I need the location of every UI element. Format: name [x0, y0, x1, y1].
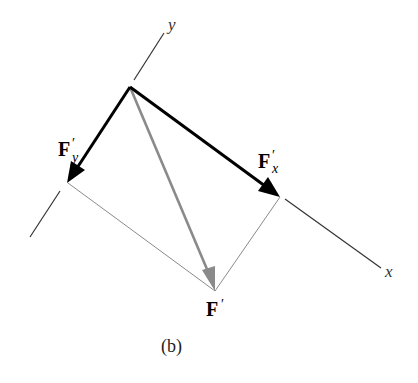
svg-text:F: F [258, 150, 270, 172]
svg-text:F: F [58, 138, 70, 160]
force-component-y-label: F ′ y [58, 136, 79, 165]
force-component-x-label: F ′ x [258, 148, 279, 176]
y-axis-upper [134, 33, 164, 80]
construction-line-from-fx [215, 197, 280, 291]
resultant-force-label: F ′ [206, 297, 224, 320]
x-axis-label: x [384, 262, 393, 281]
y-axis-lower [30, 191, 60, 237]
svg-text:y: y [70, 150, 79, 165]
force-component-y-arrow [67, 87, 130, 183]
svg-text:x: x [271, 161, 279, 176]
force-diagram: y x F ′ y F ′ x F ′ (b) [0, 0, 418, 383]
figure-caption: (b) [161, 336, 182, 357]
svg-text:F: F [206, 298, 218, 320]
svg-text:′: ′ [72, 136, 75, 151]
svg-text:′: ′ [221, 297, 224, 312]
y-axis-label: y [166, 15, 176, 34]
x-axis [285, 199, 381, 268]
